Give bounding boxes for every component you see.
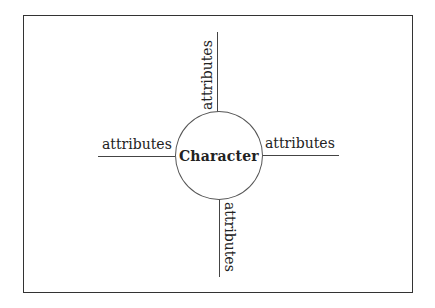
- bottom-branch-line: [219, 199, 220, 277]
- top-branch-label: attributes: [199, 40, 215, 110]
- center-node: Character: [175, 111, 263, 200]
- right-branch-line: [262, 155, 339, 156]
- top-branch-line: [217, 32, 218, 112]
- left-branch-line: [98, 156, 175, 157]
- right-branch-label: attributes: [265, 135, 335, 151]
- center-label: Character: [179, 148, 259, 164]
- bottom-branch-label: attributes: [222, 202, 238, 272]
- left-branch-label: attributes: [102, 136, 172, 152]
